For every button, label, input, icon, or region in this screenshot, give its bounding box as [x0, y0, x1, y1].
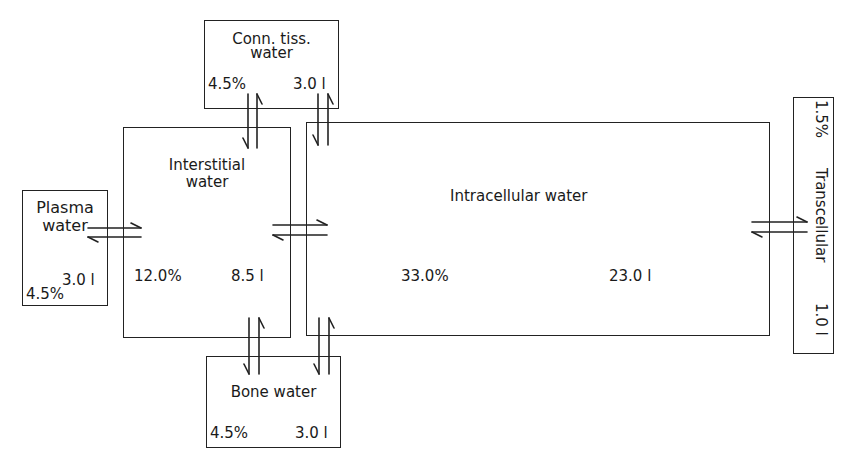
arrow-bone-interstitial — [244, 318, 264, 374]
arrow-bone-intracellular — [314, 318, 334, 374]
arrow-conn-tiss-interstitial — [243, 94, 262, 148]
arrow-intracellular-transcellular — [752, 217, 807, 237]
arrow-interstitial-intracellular — [273, 220, 327, 240]
arrow-conn-tiss-intracellular — [313, 94, 333, 145]
arrow-plasma-interstitial — [88, 223, 141, 242]
exchange-arrows — [0, 0, 845, 456]
